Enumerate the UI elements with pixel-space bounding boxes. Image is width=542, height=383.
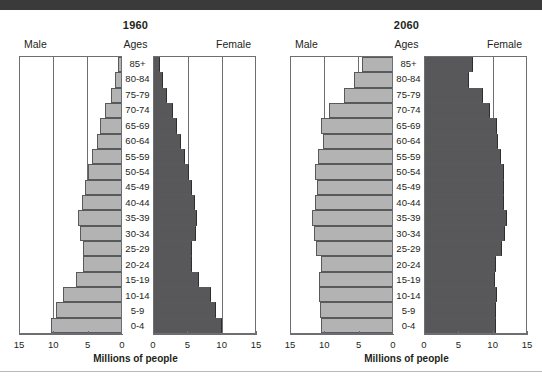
axis-tick-label: 10 (487, 339, 498, 350)
age-label: 45-49 (393, 180, 424, 195)
bar-row (291, 241, 392, 256)
axis-tick (256, 331, 257, 335)
bar-female-15-19 (425, 272, 495, 287)
bar-female-5-9 (154, 302, 216, 317)
bar-row (425, 241, 526, 256)
age-label: 10-14 (393, 288, 424, 303)
bar-row (20, 302, 121, 317)
bar-row (154, 272, 255, 287)
age-label: 55-59 (393, 149, 424, 164)
axis-tick-label: 10 (319, 339, 330, 350)
axis-title-1960: Millions of people (0, 353, 271, 364)
axis-line-female-2060 (424, 334, 527, 335)
age-label: 60-64 (122, 133, 153, 148)
panel-year-1960: 1960 (0, 19, 271, 31)
age-label: 70-74 (122, 102, 153, 117)
bar-male-20-24 (83, 256, 121, 271)
bar-row (154, 195, 255, 210)
bar-row (291, 88, 392, 103)
bar-row (425, 226, 526, 241)
age-label: 15-19 (122, 272, 153, 287)
age-label: 50-54 (122, 164, 153, 179)
bar-row (20, 134, 121, 149)
bar-row (20, 210, 121, 225)
bar-row (154, 103, 255, 118)
bar-female-45-49 (154, 180, 192, 195)
bar-male-45-49 (85, 180, 121, 195)
bar-female-60-64 (154, 134, 181, 149)
bar-male-10-14 (63, 287, 121, 302)
bar-female-65-69 (425, 118, 497, 133)
axis-title-2060: Millions of people (271, 353, 542, 364)
bar-row (425, 272, 526, 287)
age-label: 25-29 (393, 241, 424, 256)
age-label: 30-34 (122, 226, 153, 241)
axis-tick (424, 331, 425, 335)
legend-label-female-2060: Female (487, 38, 522, 50)
bar-row (291, 318, 392, 333)
male-bars-1960 (20, 57, 121, 333)
bar-male-65-69 (321, 118, 392, 133)
age-label: 85+ (122, 56, 153, 71)
bar-male-40-44 (82, 195, 121, 210)
axis-tick-label: 15 (251, 339, 262, 350)
bar-row (154, 302, 255, 317)
bar-female-80-84 (154, 72, 163, 87)
age-label: 30-34 (393, 226, 424, 241)
bar-male-35-39 (312, 210, 392, 225)
age-label: 65-69 (122, 118, 153, 133)
age-label: 70-74 (393, 102, 424, 117)
bar-male-60-64 (97, 134, 121, 149)
male-bars-2060 (291, 57, 392, 333)
bar-male-85plus (362, 57, 392, 72)
bar-row (20, 118, 121, 133)
axis-line-male-1960 (19, 334, 122, 335)
female-bars-2060 (425, 57, 526, 333)
female-half-2060 (424, 56, 527, 334)
axis-tick (53, 331, 54, 335)
bar-row (154, 287, 255, 302)
bar-female-10-14 (425, 287, 497, 302)
bar-row (20, 57, 121, 72)
bar-female-0-4 (425, 318, 496, 333)
bar-row (425, 88, 526, 103)
bar-female-75-79 (425, 88, 483, 103)
age-label: 35-39 (122, 210, 153, 225)
bar-male-85plus (118, 57, 121, 72)
axis-tick (88, 331, 89, 335)
bar-female-30-34 (425, 226, 505, 241)
female-bars-1960 (154, 57, 255, 333)
bar-row (425, 180, 526, 195)
bar-female-50-54 (425, 164, 504, 179)
male-half-2060 (290, 56, 393, 334)
bar-male-5-9 (56, 302, 121, 317)
axis-tick (222, 331, 223, 335)
axis-line-female-1960 (153, 334, 256, 335)
bar-female-15-19 (154, 272, 199, 287)
axis-tick-label: 0 (150, 339, 155, 350)
bar-female-45-49 (425, 180, 504, 195)
age-labels-1960: 85+80-8475-7970-7465-6960-6455-5950-5445… (122, 56, 153, 334)
bar-female-30-34 (154, 226, 196, 241)
bar-female-70-74 (154, 103, 173, 118)
bar-row (291, 164, 392, 179)
bar-row (154, 88, 255, 103)
bar-row (154, 180, 255, 195)
bar-row (154, 164, 255, 179)
axis-tick-label: 0 (421, 339, 426, 350)
bar-male-30-34 (80, 226, 121, 241)
bar-row (425, 57, 526, 72)
bar-row (20, 195, 121, 210)
bar-row (425, 149, 526, 164)
age-label: 35-39 (393, 210, 424, 225)
bar-row (425, 134, 526, 149)
axis-tick-label: 10 (216, 339, 227, 350)
axis-tick-label: 0 (390, 339, 395, 350)
age-label: 40-44 (393, 195, 424, 210)
female-half-1960 (153, 56, 256, 334)
bar-male-0-4 (51, 318, 121, 333)
age-label: 80-84 (393, 71, 424, 86)
bar-male-25-29 (83, 241, 121, 256)
bar-row (291, 287, 392, 302)
bar-row (20, 180, 121, 195)
